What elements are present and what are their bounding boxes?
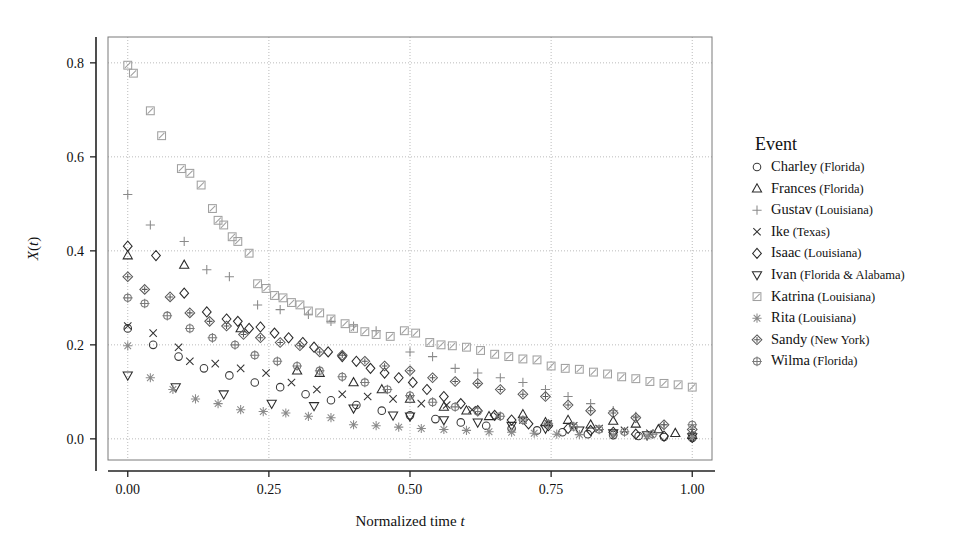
data-point <box>149 329 156 336</box>
data-point <box>267 400 276 408</box>
plot-frame <box>96 37 715 471</box>
data-point <box>520 356 526 362</box>
data-point <box>349 378 358 386</box>
data-point <box>423 384 432 394</box>
data-point <box>439 425 448 434</box>
data-point <box>475 381 481 387</box>
data-point <box>219 391 228 399</box>
data-point <box>609 430 618 439</box>
data-point <box>349 321 358 330</box>
x-tick-label: 0.50 <box>398 482 423 497</box>
legend-item-9[interactable]: Wilma (Florida) <box>745 352 960 377</box>
data-point <box>224 323 230 329</box>
data-point <box>619 374 625 380</box>
data-point <box>280 295 286 301</box>
data-point <box>360 378 370 388</box>
data-point <box>142 287 148 293</box>
data-point <box>123 190 132 199</box>
x-tick-label: 1.00 <box>680 482 705 497</box>
data-point <box>366 363 375 373</box>
data-point <box>250 350 260 360</box>
data-point <box>438 342 444 348</box>
data-point <box>152 250 161 260</box>
data-point <box>418 400 425 407</box>
data-point <box>378 407 386 415</box>
legend-label: Ivan (Florida & Alabama) <box>771 266 905 282</box>
data-point <box>562 366 568 372</box>
legend-label: Sandy (New York) <box>771 331 869 347</box>
data-point <box>518 378 527 387</box>
data-point <box>284 333 293 343</box>
data-point <box>462 426 471 435</box>
y-tick-label: 0.8 <box>67 56 85 71</box>
data-point <box>288 379 295 386</box>
data-point <box>349 420 358 429</box>
data-point <box>661 381 667 387</box>
data-point <box>317 310 323 316</box>
data-point <box>326 317 335 326</box>
data-point <box>507 415 516 425</box>
legend-label: Isaac (Louisiana) <box>771 244 862 260</box>
data-point <box>263 286 269 292</box>
data-point <box>439 417 448 425</box>
data-point <box>208 333 218 343</box>
data-point <box>439 391 448 401</box>
data-point <box>256 322 265 332</box>
data-point <box>168 385 177 394</box>
data-point <box>175 353 183 361</box>
data-point <box>297 343 303 349</box>
data-point <box>302 390 310 398</box>
x-tick-label: 0.25 <box>257 482 282 497</box>
legend: EventCharley (Florida)Frances (Florida)G… <box>745 134 960 377</box>
data-point <box>313 386 320 393</box>
data-point <box>251 379 259 387</box>
data-point <box>339 391 346 398</box>
data-point <box>496 373 505 382</box>
data-point <box>289 300 295 306</box>
data-point <box>191 394 200 403</box>
data-point <box>591 369 597 375</box>
data-point <box>187 310 193 316</box>
data-point <box>281 408 290 417</box>
data-point <box>364 393 371 400</box>
data-point <box>186 358 193 365</box>
data-point <box>255 281 261 287</box>
data-point <box>175 344 182 351</box>
data-point <box>310 342 319 352</box>
data-point <box>276 383 284 391</box>
data-point <box>167 294 173 300</box>
data-point <box>276 305 285 314</box>
data-point <box>594 425 604 435</box>
data-point <box>394 373 403 383</box>
data-point <box>180 260 189 268</box>
data-point <box>337 372 347 382</box>
data-point <box>671 428 680 436</box>
data-point <box>317 349 323 355</box>
data-point <box>202 307 211 317</box>
legend-label: Gustav (Louisiana) <box>771 201 873 217</box>
data-point <box>450 343 456 349</box>
data-point <box>222 314 231 324</box>
data-point <box>484 427 493 436</box>
data-point <box>125 274 131 280</box>
data-point <box>451 364 460 373</box>
data-point <box>675 382 681 388</box>
data-point <box>389 395 396 402</box>
y-tick-label: 0.6 <box>67 150 85 165</box>
data-point <box>633 415 639 421</box>
data-point <box>588 408 594 414</box>
data-point <box>752 314 761 323</box>
data-point <box>530 429 539 438</box>
y-tick-label: 0.4 <box>67 244 85 259</box>
data-point <box>159 133 165 139</box>
data-point <box>236 405 245 414</box>
data-point <box>478 348 484 354</box>
data-point <box>270 328 279 338</box>
data-point <box>200 365 208 373</box>
data-point <box>506 354 512 360</box>
data-point <box>237 365 244 372</box>
data-point <box>633 376 639 382</box>
y-tick-label: 0.2 <box>67 338 85 353</box>
data-point <box>272 293 278 299</box>
data-point <box>647 379 653 385</box>
